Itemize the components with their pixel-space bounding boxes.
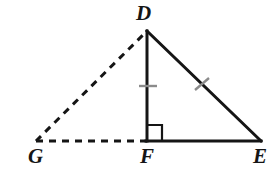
geometry-figure: D G F E [0, 0, 279, 172]
right-angle-marker [148, 125, 162, 140]
vertex-label-D: D [136, 3, 151, 24]
vertex-label-E: E [253, 146, 267, 167]
vertex-label-F: F [140, 146, 154, 167]
vertex-label-G: G [28, 146, 43, 167]
segment-GD [36, 31, 147, 141]
segment-DE [147, 31, 261, 141]
